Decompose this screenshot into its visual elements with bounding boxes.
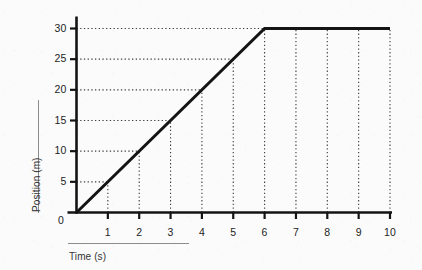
x-tick-label: 3	[156, 226, 186, 238]
vertical-gridlines	[108, 29, 390, 213]
position-series-line	[77, 29, 391, 213]
x-tick-label: 1	[93, 226, 123, 238]
x-tick-label: 5	[218, 226, 248, 238]
x-tick-label: 7	[281, 226, 311, 238]
y-tick-label: 30	[43, 22, 67, 34]
x-tick-label: 9	[344, 226, 374, 238]
x-tick-label: 8	[312, 226, 342, 238]
y-tick-label: 20	[43, 83, 67, 95]
y-tick-label: 5	[43, 175, 67, 187]
x-axis-title: Time (s)	[69, 251, 106, 262]
y-tick-label: 15	[43, 114, 67, 126]
x-tick-label: 10	[375, 226, 405, 238]
x-tick-label: 6	[250, 226, 280, 238]
x-tick-label: 4	[187, 226, 217, 238]
y-axis-title: Position (m)	[31, 157, 42, 212]
origin-label: 0	[44, 214, 64, 226]
y-tick-label: 10	[43, 144, 67, 156]
x-tick-label: 2	[124, 226, 154, 238]
y-tick-label: 25	[43, 52, 67, 64]
horizontal-gridlines	[77, 29, 265, 182]
x-title-rule	[68, 243, 189, 244]
